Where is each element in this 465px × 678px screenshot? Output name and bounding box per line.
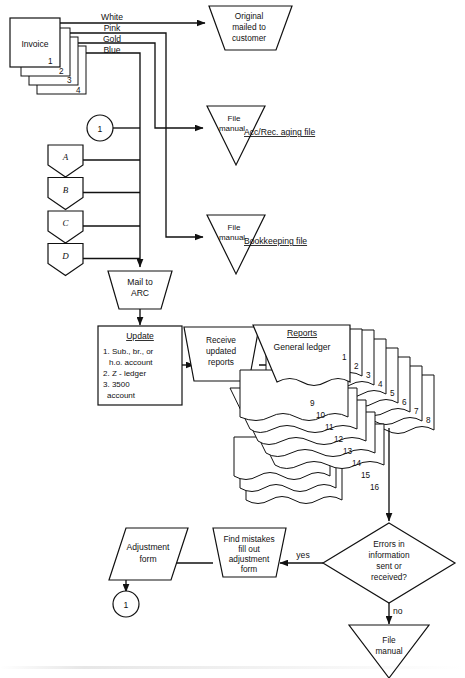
invoice-label: Invoice — [21, 39, 48, 49]
find-mistakes-line-3: adjustment — [229, 554, 270, 564]
report-number-15: 15 — [361, 471, 371, 480]
report-number-4: 4 — [378, 380, 383, 389]
connector-circle-bottom-label: 1 — [124, 600, 129, 610]
adjustment-form-line-2: form — [139, 554, 156, 564]
node-update: Update 1. Sub., br., or h.o. account 2. … — [98, 326, 182, 405]
invoice-copy-number-3: 3 — [67, 76, 72, 85]
label-blue: Blue — [103, 45, 120, 55]
report-number-10: 10 — [316, 411, 326, 420]
scan-artifact — [0, 666, 465, 669]
report-number-12: 12 — [334, 435, 344, 444]
original-mailed-line-2: mailed to — [232, 22, 266, 32]
offpage-d-label: D — [61, 251, 69, 261]
file-manual-bookkeeping-line-2: manual — [219, 233, 245, 242]
offpage-connector-b: B — [48, 178, 83, 210]
node-mail-to-arc: Mail to ARC — [108, 271, 172, 309]
file-manual-bookkeeping-caption: Bookkeeping file — [244, 236, 307, 246]
node-adjustment-form: Adjustment form — [109, 528, 188, 580]
find-mistakes-line-2: fill out — [238, 544, 260, 554]
report-number-1: 1 — [342, 353, 347, 362]
label-gold: Gold — [103, 34, 121, 44]
invoice-copy-number-1: 1 — [48, 57, 53, 66]
offpage-a-label: A — [62, 152, 69, 162]
decision-line-1: Errors in — [373, 539, 405, 549]
node-decision-errors: Errors in information sent or received? — [323, 523, 455, 603]
receive-reports-line-3: reports — [208, 357, 234, 367]
file-manual-final-line-2: manual — [375, 646, 402, 656]
report-number-2: 2 — [354, 362, 359, 371]
update-item-4: 3. 3500 — [103, 380, 130, 389]
update-item-5: account — [107, 391, 136, 400]
mail-to-arc-line-2: ARC — [131, 288, 149, 298]
report-number-5: 5 — [390, 389, 395, 398]
edge-label-yes: yes — [296, 550, 309, 560]
mail-to-arc-line-1: Mail to — [127, 277, 153, 287]
report-number-13: 13 — [343, 447, 353, 456]
invoice-copy-number-2: 2 — [59, 67, 64, 76]
report-number-7: 7 — [414, 407, 419, 416]
node-original-mailed: Original mailed to customer — [209, 6, 292, 50]
file-manual-bookkeeping-line-1: File — [228, 223, 241, 232]
original-mailed-line-1: Original — [235, 11, 264, 21]
original-mailed-line-3: customer — [232, 33, 266, 43]
receive-reports-line-2: updated — [206, 346, 236, 356]
offpage-b-label: B — [63, 185, 69, 195]
report-number-8: 8 — [426, 416, 431, 425]
edge-label-no: no — [393, 606, 403, 616]
label-pink: Pink — [104, 23, 121, 33]
update-item-1: 1. Sub., br., or — [103, 347, 154, 356]
report-number-9: 9 — [310, 399, 315, 408]
offpage-connector-c: C — [48, 211, 83, 243]
connector-circle-top-label: 1 — [98, 124, 103, 134]
decision-line-2: information — [368, 550, 409, 560]
reports-title: Reports — [287, 328, 317, 338]
report-number-14: 14 — [352, 459, 362, 468]
find-mistakes-line-4: form — [241, 564, 258, 574]
offpage-connector-a: A — [48, 145, 83, 177]
decision-line-3: sent or — [376, 561, 402, 571]
connector-circle-top: 1 — [87, 115, 113, 141]
file-manual-aging-caption: Acc/Rec. aging file — [244, 127, 315, 137]
offpage-c-label: C — [62, 218, 69, 228]
report-number-16: 16 — [370, 483, 380, 492]
file-manual-aging-line-1: File — [228, 114, 241, 123]
report-number-3: 3 — [366, 371, 371, 380]
reports-subtitle: General ledger — [274, 342, 331, 352]
report-number-11: 11 — [325, 423, 334, 432]
invoice-stack: Invoice 1 2 3 4 — [10, 18, 86, 95]
update-title: Update — [126, 331, 154, 341]
reports-stack: Reports General ledger 1 2 3 4 5 6 7 8 9… — [230, 325, 434, 504]
node-file-manual-final: File manual — [349, 625, 429, 678]
offpage-connector-d: D — [48, 244, 83, 276]
label-white: White — [101, 12, 123, 22]
report-number-6: 6 — [402, 398, 407, 407]
adjustment-form-line-1: Adjustment — [127, 542, 171, 552]
find-mistakes-line-1: Find mistakes — [223, 534, 274, 544]
flowchart-canvas: Invoice 1 2 3 4 White Pink Gold Blue Ori… — [0, 0, 465, 678]
node-find-mistakes: Find mistakes fill out adjustment form — [213, 528, 286, 577]
update-item-2: h.o. account — [109, 358, 153, 367]
connector-circle-bottom: 1 — [113, 591, 139, 617]
file-manual-aging-line-2: manual — [219, 124, 245, 133]
receive-reports-line-1: Receive — [206, 335, 236, 345]
flowchart-svg: Invoice 1 2 3 4 White Pink Gold Blue Ori… — [0, 0, 465, 678]
file-manual-final-line-1: File — [382, 635, 396, 645]
node-file-manual-aging: File manual Acc/Rec. aging file — [207, 106, 315, 165]
node-file-manual-bookkeeping: File manual Bookkeeping file — [207, 215, 307, 274]
invoice-copy-number-4: 4 — [76, 86, 81, 95]
update-item-3: 2. Z - ledger — [103, 369, 146, 378]
decision-line-4: received? — [371, 572, 407, 582]
